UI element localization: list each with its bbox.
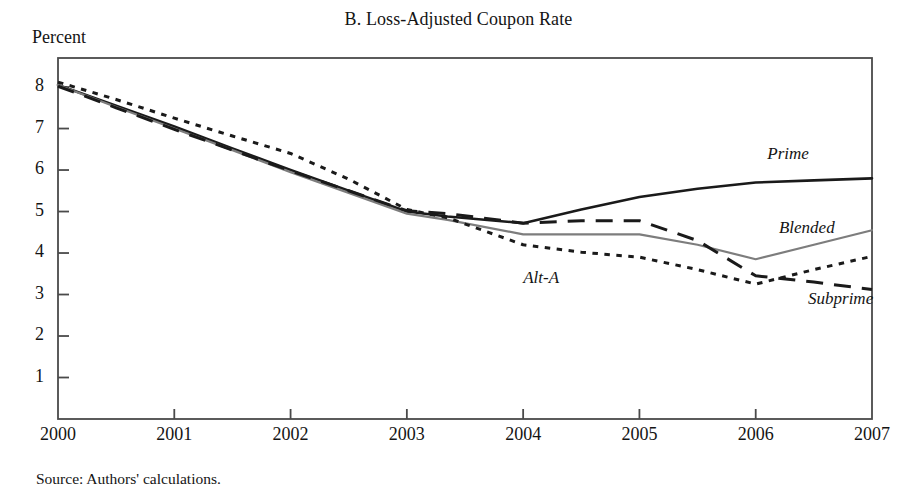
y-tick-label: 1 [14, 366, 44, 387]
y-tick-label: 2 [14, 324, 44, 345]
x-tick-label: 2004 [488, 424, 558, 445]
chart-series [58, 82, 872, 289]
series-label-blended: Blended [779, 218, 835, 238]
line-chart-canvas [0, 0, 917, 497]
x-tick-label: 2002 [256, 424, 326, 445]
y-tick-label: 4 [14, 241, 44, 262]
x-tick-label: 2006 [721, 424, 791, 445]
series-line-blended [58, 85, 872, 259]
y-tick-label: 6 [14, 158, 44, 179]
x-tick-label: 2005 [604, 424, 674, 445]
series-label-alt-a: Alt-A [523, 268, 559, 288]
y-tick-label: 8 [14, 75, 44, 96]
x-tick-label: 2007 [837, 424, 907, 445]
plot-frame [58, 58, 872, 419]
series-label-subprime: Subprime [808, 289, 873, 309]
source-note: Source: Authors' calculations. [36, 470, 221, 488]
y-tick-label: 5 [14, 200, 44, 221]
x-tick-label: 2003 [372, 424, 442, 445]
y-tick-label: 7 [14, 117, 44, 138]
chart-axes [58, 58, 872, 419]
series-line-alt-a [58, 86, 872, 289]
x-tick-label: 2000 [23, 424, 93, 445]
series-label-prime: Prime [767, 144, 809, 164]
x-tick-label: 2001 [139, 424, 209, 445]
y-tick-label: 3 [14, 283, 44, 304]
series-line-prime [58, 85, 872, 223]
figure-panel-b: B. Loss-Adjusted Coupon Rate Percent 123… [0, 0, 917, 497]
